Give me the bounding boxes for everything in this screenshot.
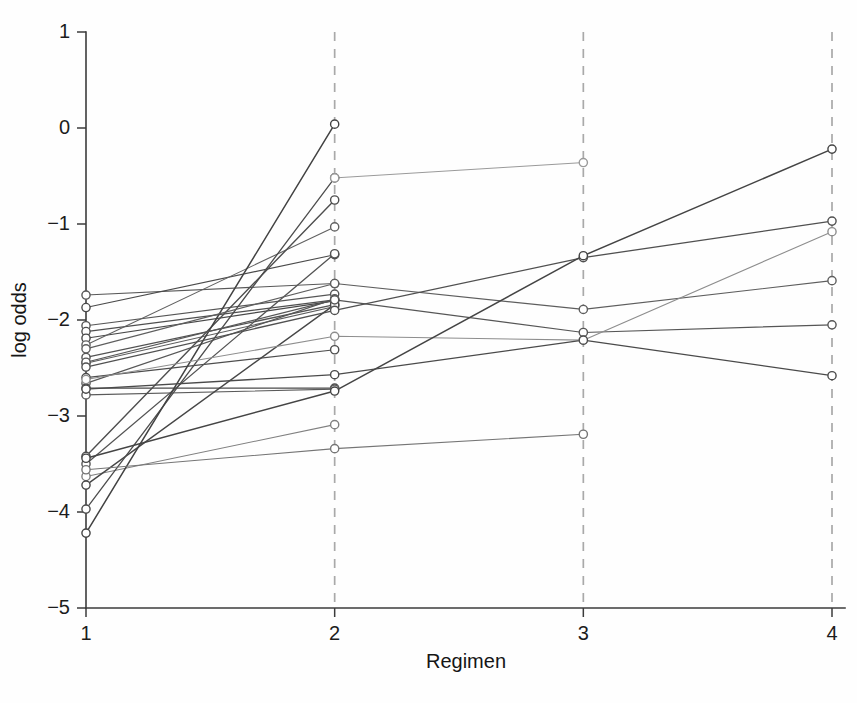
y-axis-title: log odds [8,282,30,358]
y-tick-label-3: −2 [47,308,70,330]
data-point-s22-1 [331,306,339,314]
data-point-s24-3 [828,145,836,153]
data-point-s19-0 [331,174,339,182]
spaghetti-plot-svg: 10−1−2−3−4−5 1234 Regimen log odds [0,0,857,703]
data-point-s25-3 [828,372,836,380]
data-point-s18-0 [82,529,90,537]
data-point-s25-2 [579,336,587,344]
y-tick-label-0: 1 [59,20,70,42]
data-point-s20-1 [331,279,339,287]
gridlines [335,32,832,608]
data-point-s14-1 [331,250,339,258]
series-line-s24 [86,149,832,458]
x-tick-label-0: 1 [80,622,91,644]
series-line-s21 [86,300,832,362]
data-point-s22-3 [828,217,836,225]
data-series-group [86,124,832,533]
data-point-s20-3 [828,277,836,285]
data-point-s06-1 [331,223,339,231]
data-point-s19-1 [579,158,587,166]
series-line-s10 [86,299,335,383]
x-axis-ticks: 1234 [80,608,837,644]
data-point-s26-2 [579,430,587,438]
y-tick-label-2: −1 [47,212,70,234]
data-point-s25-1 [331,371,339,379]
data-point-s09-1 [331,346,339,354]
y-tick-label-4: −3 [47,404,70,426]
data-point-s24-0 [82,454,90,462]
series-line-s18 [86,124,335,533]
y-tick-label-1: 0 [59,116,70,138]
data-point-s13-1 [331,196,339,204]
data-point-s17-0 [82,505,90,513]
data-point-s22-0 [82,363,90,371]
data-point-s01-0 [82,291,90,299]
series-line-s16 [86,305,335,485]
data-point-s24-2 [579,252,587,260]
chart-figure: 10−1−2−3−4−5 1234 Regimen log odds [0,0,857,703]
data-point-s21-1 [331,296,339,304]
data-point-s21-2 [579,328,587,336]
series-line-s19 [335,163,584,178]
data-point-s23-0 [82,375,90,383]
x-tick-label-2: 3 [578,622,589,644]
data-point-s15-1 [331,421,339,429]
data-point-s23-3 [828,228,836,236]
data-point-s20-0 [82,345,90,353]
data-point-s26-0 [82,466,90,474]
data-point-s26-1 [331,445,339,453]
data-point-s21-3 [828,321,836,329]
data-point-s24-1 [331,387,339,395]
series-line-s03 [86,294,335,326]
x-axis-title: Regimen [426,650,506,672]
data-point-s25-0 [82,385,90,393]
data-point-s02-0 [82,303,90,311]
data-point-s20-2 [579,305,587,313]
y-axis-ticks: 10−1−2−3−4−5 [47,20,86,618]
data-point-s16-0 [82,481,90,489]
x-tick-label-1: 2 [329,622,340,644]
y-tick-label-5: −4 [47,500,70,522]
data-point-s23-1 [331,332,339,340]
data-point-s18-1 [331,120,339,128]
x-tick-label-3: 4 [826,622,837,644]
y-tick-label-6: −5 [47,596,70,618]
series-line-s02 [86,255,335,308]
